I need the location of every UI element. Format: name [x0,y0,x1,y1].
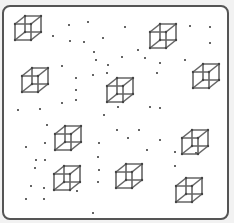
dot [159,62,161,64]
dot [25,146,27,148]
dot [44,159,46,161]
dot [159,139,161,141]
dot [68,24,70,26]
dot [137,49,139,51]
dot [146,149,148,151]
dot [124,26,126,28]
dot [39,108,41,110]
dot [174,151,176,153]
dot [117,106,119,108]
dot [83,41,85,43]
dot [92,212,94,214]
dot [116,129,118,131]
dot [61,102,63,104]
dot [106,72,108,74]
dot [95,59,97,61]
dot [93,51,95,53]
wireframe-cube-icon [181,129,209,155]
dot [149,106,151,108]
dot [34,167,36,169]
dot [43,187,45,189]
dot [209,26,211,28]
wireframe-cube-icon [53,165,81,191]
dot [174,165,176,167]
dot [25,198,27,200]
wireframe-cube-icon [106,77,134,103]
dot [69,40,71,42]
dot [61,65,63,67]
dot [121,56,123,58]
dot [35,159,37,161]
dot [107,64,109,66]
wireframe-cube-icon [21,67,49,93]
wireframe-cube-icon [115,163,143,189]
dot [127,137,129,139]
wireframe-cube-icon [192,63,220,89]
dot [76,190,78,192]
dot [97,181,99,183]
wireframe-cube-icon [149,23,177,49]
dot [87,21,89,23]
dot [46,124,48,126]
dot [44,142,46,144]
dot [102,37,104,39]
dot [156,72,158,74]
dot [97,156,99,158]
dot [52,35,54,37]
wireframe-cube-icon [14,15,42,41]
dot [43,198,45,200]
dot [209,42,211,44]
dot [184,59,186,61]
dot [144,57,146,59]
dot [159,107,161,109]
dot [138,129,140,131]
dot [75,89,77,91]
dot [75,77,77,79]
wireframe-cube-icon [54,125,82,151]
dot [17,109,19,111]
dot [75,99,77,101]
dot [189,25,191,27]
dot [92,74,94,76]
wireframe-cube-icon [175,177,203,203]
puzzle-canvas [0,0,234,223]
dot [98,142,100,144]
dot [98,169,100,171]
dot [103,114,105,116]
dot [30,185,32,187]
